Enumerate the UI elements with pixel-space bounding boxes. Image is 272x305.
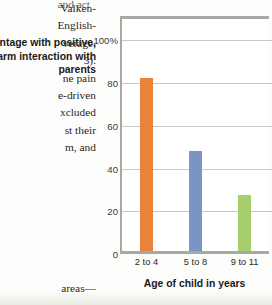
bar-chart: 020406080100%2 to 45 to 89 to 11 Age of … <box>103 16 269 291</box>
book-page: and act Percentage with positive, warm i… <box>0 0 272 305</box>
page-body-line: st their <box>0 122 96 139</box>
chart-bar <box>140 78 154 251</box>
chart-y-tick-label: 80 <box>107 78 118 89</box>
page-body-line: xcluded <box>0 104 96 121</box>
chart-y-tick-label: 60 <box>107 120 118 131</box>
chart-x-tick-label: 9 to 11 <box>231 257 259 267</box>
chart-bar <box>238 195 252 251</box>
page-body-line: English- <box>0 17 96 34</box>
chart-y-tick-label: 100% <box>93 35 118 46</box>
page-body-line: Valken- <box>0 0 96 17</box>
chart-x-axis-title: Age of child in years <box>120 278 269 289</box>
chart-bar <box>189 151 203 251</box>
chart-y-tick-label: 0 <box>113 249 118 260</box>
chart-gridline <box>122 40 272 41</box>
page-body-line: verage, <box>0 35 96 52</box>
chart-x-tick-label: 5 to 8 <box>184 257 207 267</box>
chart-y-tick-label: 40 <box>107 163 118 174</box>
page-body-text: Valken-English-verage,3).ne paine-driven… <box>0 0 96 157</box>
page-body-line: 3). <box>0 52 96 69</box>
page-body-line: m, and <box>0 139 96 156</box>
chart-plot-area: 020406080100%2 to 45 to 89 to 11 <box>120 16 269 254</box>
page-body-line: e-driven <box>0 87 96 104</box>
scan-page-edge <box>0 291 272 305</box>
chart-y-tick-label: 20 <box>107 206 118 217</box>
page-body-line: ne pain <box>0 70 96 87</box>
chart-x-tick-label: 2 to 4 <box>135 257 158 267</box>
